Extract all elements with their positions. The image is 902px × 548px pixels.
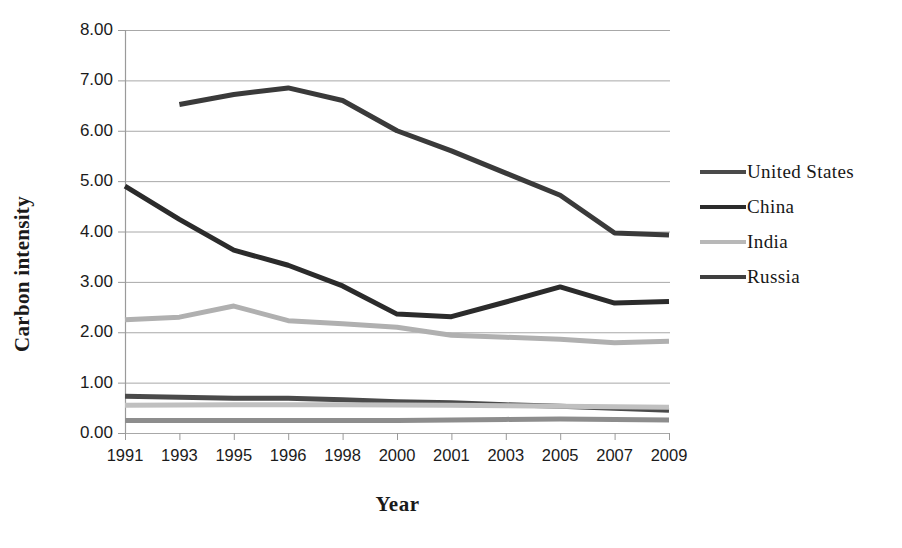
x-tick-label: 2001 bbox=[421, 447, 481, 464]
y-tick-label: 7.00 bbox=[53, 71, 113, 88]
legend-swatch-icon bbox=[700, 275, 746, 279]
series-line bbox=[125, 419, 669, 421]
x-tick-label: 2007 bbox=[585, 447, 645, 464]
x-tick-label: 1991 bbox=[95, 447, 155, 464]
series-line bbox=[179, 88, 669, 235]
legend-swatch-icon bbox=[700, 240, 746, 244]
legend-swatch-icon bbox=[700, 205, 746, 209]
legend-item[interactable]: Russia bbox=[700, 265, 890, 293]
x-axis-tick-labels: 1991199319951996199820002001200320052007… bbox=[125, 447, 670, 473]
y-tick-label: 6.00 bbox=[53, 122, 113, 139]
x-tick-label: 2000 bbox=[367, 447, 427, 464]
x-tick-label: 2009 bbox=[639, 447, 699, 464]
legend-swatch-icon bbox=[700, 170, 746, 174]
x-tick-label: 2003 bbox=[476, 447, 536, 464]
y-tick-label: 8.00 bbox=[53, 21, 113, 38]
legend-item[interactable]: United States bbox=[700, 160, 890, 188]
legend-label: India bbox=[747, 230, 788, 254]
series-line bbox=[125, 405, 669, 408]
x-tick-label: 2005 bbox=[530, 447, 590, 464]
legend-label: Russia bbox=[747, 265, 800, 289]
legend: United StatesChinaIndiaRussia bbox=[700, 160, 890, 300]
y-tick-label: 3.00 bbox=[53, 273, 113, 290]
y-tick-label: 2.00 bbox=[53, 323, 113, 340]
x-tick-label: 1998 bbox=[313, 447, 373, 464]
legend-item[interactable]: India bbox=[700, 230, 890, 258]
line-chart: Carbon intensity 0.001.002.003.004.005.0… bbox=[0, 0, 902, 548]
legend-label: United States bbox=[747, 160, 854, 184]
legend-item[interactable]: China bbox=[700, 195, 890, 223]
plot-area bbox=[125, 30, 670, 433]
y-tick-label: 0.00 bbox=[53, 424, 113, 441]
legend-label: China bbox=[747, 195, 794, 219]
series-line bbox=[125, 186, 669, 316]
y-tick-label: 4.00 bbox=[53, 223, 113, 240]
x-tick-label: 1993 bbox=[149, 447, 209, 464]
y-axis-tick-labels: 0.001.002.003.004.005.006.007.008.00 bbox=[45, 0, 113, 548]
y-tick-label: 5.00 bbox=[53, 172, 113, 189]
y-axis-title: Carbon intensity bbox=[0, 0, 44, 548]
x-axis-title: Year bbox=[125, 492, 670, 517]
plot-svg bbox=[115, 26, 680, 446]
x-tick-label: 1995 bbox=[204, 447, 264, 464]
y-tick-label: 1.00 bbox=[53, 374, 113, 391]
x-tick-label: 1996 bbox=[258, 447, 318, 464]
